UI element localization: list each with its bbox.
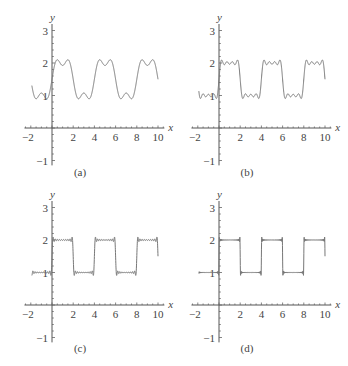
y-tick-label: 3: [210, 25, 216, 37]
panel-caption: (d): [241, 342, 254, 355]
x-tick-label: 10: [320, 131, 332, 143]
x-tick-label: 6: [113, 308, 119, 320]
fourier-square-wave-figure: −2246810321−1xy(a)−2246810321−1xy(b)−224…: [0, 0, 348, 366]
y-axis-label: y: [49, 188, 55, 200]
panel-caption: (a): [74, 166, 87, 179]
x-tick-label: 2: [237, 131, 243, 143]
x-axis-label: x: [167, 298, 173, 310]
chart-panel-d: −2246810321−1xy(d): [189, 188, 340, 355]
x-tick-label: 8: [301, 131, 307, 143]
y-tick-label: −1: [36, 155, 48, 167]
x-tick-label: 2: [70, 308, 76, 320]
fourier-partial-sum-curve: [199, 237, 325, 275]
y-axis-label: y: [216, 188, 222, 200]
fourier-partial-sum-curve: [199, 60, 325, 98]
panel-caption: (b): [241, 166, 254, 179]
x-tick-label: −2: [189, 131, 201, 143]
x-tick-label: 8: [301, 308, 307, 320]
x-tick-label: 4: [259, 131, 265, 143]
x-tick-label: 10: [320, 308, 332, 320]
x-tick-label: −2: [189, 308, 201, 320]
x-tick-label: 4: [259, 308, 265, 320]
x-tick-label: 8: [134, 308, 140, 320]
y-axis-label: y: [49, 11, 55, 23]
y-tick-label: −1: [36, 332, 48, 344]
x-axis-label: x: [334, 298, 340, 310]
x-tick-label: 6: [280, 308, 286, 320]
x-tick-label: −2: [22, 131, 34, 143]
fourier-partial-sum-curve: [32, 237, 158, 275]
x-axis-label: x: [167, 121, 173, 133]
panel-caption: (c): [74, 342, 87, 355]
x-tick-label: 10: [153, 131, 165, 143]
x-tick-label: 10: [153, 308, 165, 320]
y-tick-label: −1: [203, 155, 215, 167]
y-tick-label: 3: [43, 202, 49, 214]
y-tick-label: 3: [43, 25, 49, 37]
x-tick-label: 4: [92, 308, 98, 320]
x-tick-label: 2: [237, 308, 243, 320]
x-tick-label: 8: [134, 131, 140, 143]
y-tick-label: 2: [210, 57, 216, 69]
y-tick-label: −1: [203, 332, 215, 344]
x-axis-label: x: [334, 121, 340, 133]
y-tick-label: 2: [210, 234, 216, 246]
x-tick-label: 2: [70, 131, 76, 143]
chart-panel-b: −2246810321−1xy(b): [189, 11, 340, 179]
x-tick-label: 4: [92, 131, 98, 143]
chart-panel-c: −2246810321−1xy(c): [22, 188, 173, 355]
y-axis-label: y: [216, 11, 222, 23]
fourier-partial-sum-curve: [32, 60, 158, 99]
chart-panel-a: −2246810321−1xy(a): [22, 11, 173, 179]
y-tick-label: 3: [210, 202, 216, 214]
x-tick-label: 6: [280, 131, 286, 143]
y-tick-label: 2: [43, 234, 49, 246]
x-tick-label: −2: [22, 308, 34, 320]
x-tick-label: 6: [113, 131, 119, 143]
y-tick-label: 2: [43, 57, 49, 69]
